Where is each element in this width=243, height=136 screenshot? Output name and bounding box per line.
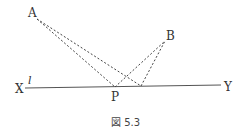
dashed-pb [115, 41, 165, 87]
figure-caption: 図 5.3 [111, 117, 140, 128]
line-xy [25, 85, 221, 88]
dashed-ap [37, 19, 115, 87]
dashed-qb [141, 41, 165, 86]
label-x: X [15, 82, 24, 96]
label-l: l [28, 74, 32, 87]
label-b: B [166, 29, 175, 43]
label-p: P [111, 90, 119, 104]
label-y: Y [223, 80, 233, 94]
label-a: A [27, 6, 37, 20]
diagram-figure: A B P X Y l 図 5.3 [0, 0, 243, 136]
dashed-aq [37, 19, 141, 86]
